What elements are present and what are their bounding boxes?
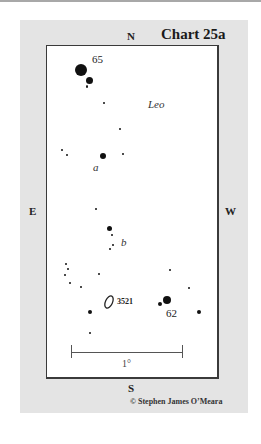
label-star-65: 65 xyxy=(92,54,103,65)
scale-bar xyxy=(71,352,183,353)
label-star-a: a xyxy=(93,162,99,173)
galaxy-3521-icon xyxy=(0,0,261,444)
label-star-b: b xyxy=(121,237,127,248)
constellation-label: Leo xyxy=(148,99,165,110)
label-star-62: 62 xyxy=(166,308,177,319)
scale-bar-right-tick xyxy=(182,345,183,358)
scale-label: 1° xyxy=(122,359,131,369)
scale-bar-left-tick xyxy=(71,345,72,358)
label-galaxy-3521: 3521 xyxy=(117,298,133,306)
credit-text: © Stephen James O’Meara xyxy=(130,398,222,406)
